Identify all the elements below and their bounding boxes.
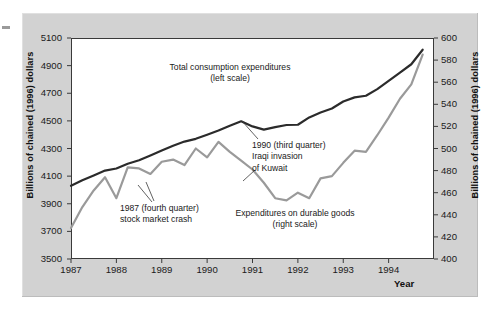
y-axis-right-tick-label: 600 (441, 32, 471, 43)
y-axis-left-tick-label: 4700 (30, 87, 62, 98)
x-axis-tick-label: 1990 (187, 264, 227, 275)
annotation-iraqi-invasion: 1990 (third quarter) Iraqi invasion of K… (252, 140, 362, 174)
x-axis-tick-label: 1992 (278, 264, 318, 275)
annotation-total-consumption: Total consumption expenditures (left sca… (150, 62, 310, 85)
leader-line-crash-a (138, 185, 152, 202)
x-axis-tick-label: 1994 (369, 264, 409, 275)
y-axis-right-tick-label: 420 (441, 231, 471, 242)
x-axis-tick-label: 1988 (96, 264, 136, 275)
y-axis-left-tick-label: 4100 (30, 170, 62, 181)
x-axis-tick-label: 1991 (233, 264, 273, 275)
y-axis-left-tick-label: 3700 (30, 225, 62, 236)
y-axis-left-tick-label: 3900 (30, 198, 62, 209)
y-axis-right-tick-label: 480 (441, 165, 471, 176)
x-axis-tick-label: 1987 (51, 264, 91, 275)
y-axis-left-tick-label: 3500 (30, 253, 62, 264)
y-axis-left-tick-label: 4500 (30, 115, 62, 126)
x-axis-tick-label: 1989 (142, 264, 182, 275)
y-axis-right-tick-label: 560 (441, 76, 471, 87)
y-axis-right-tick-label: 460 (441, 187, 471, 198)
y-axis-title-right: Billions of chained (1996) dollars (470, 25, 480, 225)
leader-line-iraq-top (242, 121, 258, 139)
y-axis-left-tick-label: 5100 (30, 32, 62, 43)
annotation-leader-lines (138, 121, 258, 202)
y-axis-left-tick-label: 4300 (30, 143, 62, 154)
x-axis-tick-label: 1993 (323, 264, 363, 275)
x-axis-title: Year (394, 278, 414, 289)
y-axis-right-tick-label: 520 (441, 120, 471, 131)
y-axis-right-tick-label: 400 (441, 253, 471, 264)
y-axis-right-tick-label: 580 (441, 54, 471, 65)
y-axis-left-tick-label: 4900 (30, 60, 62, 71)
leader-line-crash-b (146, 182, 154, 201)
y-axis-right-tick-label: 500 (441, 143, 471, 154)
annotation-stock-market-crash: 1987 (fourth quarter) stock market crash (120, 203, 250, 226)
figure-root: Billions of chained (1996) dollars Billi… (0, 0, 503, 319)
y-axis-right-tick-label: 440 (441, 209, 471, 220)
y-axis-right-tick-label: 540 (441, 98, 471, 109)
